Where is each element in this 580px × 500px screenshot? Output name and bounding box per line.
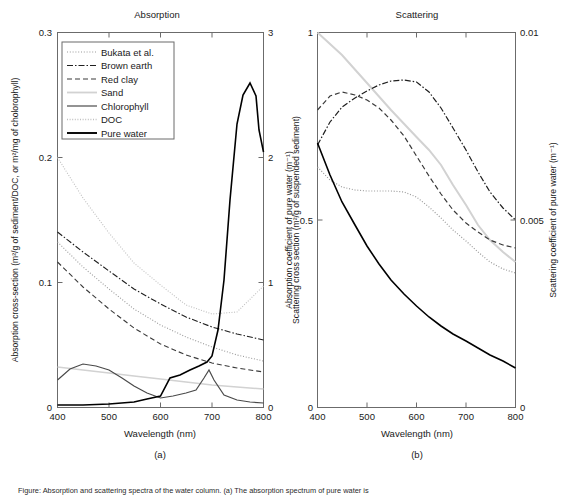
panel-b-left-yaxis: 0 0.5 1	[300, 27, 323, 413]
curve-a-sand	[58, 367, 264, 389]
panel-b-xtick-4: 800	[508, 411, 524, 422]
panel-a-title: Absorption	[134, 9, 179, 20]
panel-b-ylabel-right: Scattering coefficient of pure water (m⁻…	[548, 142, 558, 297]
legend-label-doc: DOC	[101, 114, 122, 125]
panel-a-ytick-left-2: 0.2	[39, 152, 52, 163]
panel-b-curves	[318, 33, 516, 369]
curve-b-pure-water	[318, 143, 516, 368]
panel-a-legend: Bukata et al. Brown earth Red clay Sand …	[62, 42, 174, 139]
legend-label-brown-earth: Brown earth	[101, 60, 152, 71]
curve-a-doc	[58, 158, 264, 315]
panel-a-xtick-1: 500	[101, 411, 117, 422]
panel-b-xtick-0: 400	[310, 411, 326, 422]
panel-a-ylabel-left: Absorption cross-section (m²/g of sedime…	[10, 78, 20, 363]
panel-b-xtick-2: 600	[409, 411, 425, 422]
legend-label-pure-water: Pure water	[101, 128, 147, 139]
legend-label-chlorophyll: Chlorophyll	[101, 101, 149, 112]
panel-b-xtick-3: 700	[458, 411, 474, 422]
legend-label-red-clay: Red clay	[101, 74, 138, 85]
absorption-scattering-figure: Absorption 0 0.1 0.2 0.3 0 1	[0, 0, 580, 500]
panel-a-xlabel: Wavelength (nm)	[124, 428, 196, 439]
panel-a-right-yaxis: 0 1 2 3	[259, 27, 274, 413]
panel-a: Absorption 0 0.1 0.2 0.3 0 1	[10, 9, 294, 460]
panel-b: Scattering 0 0.5 1 0 0.005 0.01	[291, 9, 558, 460]
panel-b-xaxis: 400 500 600 700 800	[310, 33, 524, 423]
curve-a-bukata	[58, 242, 264, 361]
panel-a-xtick-2: 600	[153, 411, 169, 422]
legend-label-sand: Sand	[101, 87, 123, 98]
panel-a-ytick-right-2: 2	[268, 152, 273, 163]
panel-b-ylabel-left: Scattering cross section (m²/g of suspen…	[291, 116, 301, 324]
panel-a-left-yaxis: 0 0.1 0.2 0.3	[39, 27, 63, 413]
panel-a-ytick-right-1: 1	[268, 277, 273, 288]
figure-container: Absorption 0 0.1 0.2 0.3 0 1	[0, 0, 580, 500]
curve-a-brown-earth	[58, 232, 264, 340]
panel-b-ytick-left-1: 0.5	[300, 215, 313, 226]
panel-a-ytick-left-1: 0.1	[39, 277, 52, 288]
curve-b-brown-earth	[318, 80, 516, 220]
panel-b-xlabel: Wavelength (nm)	[381, 428, 453, 439]
figure-caption: Figure: Absorption and scattering spectr…	[18, 486, 566, 498]
curve-b-red-clay	[318, 92, 516, 248]
curve-b-bukata	[318, 167, 516, 273]
panel-b-ytick-right-2: 0.01	[520, 27, 539, 38]
panel-b-title: Scattering	[396, 9, 439, 20]
curve-b-sand	[318, 33, 516, 263]
curve-a-red-clay	[58, 262, 264, 372]
panel-b-xtick-1: 500	[359, 411, 375, 422]
panel-b-ytick-right-1: 0.005	[520, 215, 544, 226]
panel-a-xtick-0: 400	[50, 411, 66, 422]
legend-label-bukata: Bukata et al.	[101, 47, 154, 58]
panel-a-ytick-left-3: 0.3	[39, 27, 52, 38]
panel-a-xtick-3: 700	[204, 411, 220, 422]
panel-a-subplot-label: (a)	[154, 449, 166, 460]
panel-a-xtick-4: 800	[256, 411, 272, 422]
panel-b-ytick-left-2: 1	[308, 27, 313, 38]
panel-b-subplot-label: (b)	[411, 449, 423, 460]
panel-a-ytick-right-3: 3	[268, 27, 273, 38]
panel-b-frame	[318, 33, 516, 408]
